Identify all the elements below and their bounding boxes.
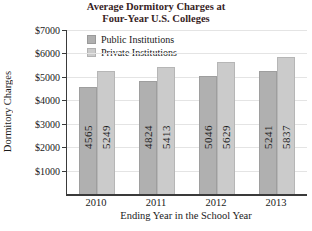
bar-value-label: 5249: [100, 125, 112, 149]
bar-value-label: 5241: [262, 125, 274, 149]
x-tick-label: 2010: [66, 197, 126, 208]
bar-value-label: 5629: [220, 125, 232, 149]
chart-title: Average Dormitory Charges at Four-Year U…: [0, 1, 312, 25]
x-tick-label: 2013: [246, 197, 306, 208]
x-tick-label: 2011: [126, 197, 186, 208]
x-tick-label: 2012: [186, 197, 246, 208]
bar: 5249: [97, 71, 115, 194]
y-tick-label: $4000: [35, 95, 60, 106]
bar: 5241: [259, 71, 277, 194]
y-tick-label: $1000: [35, 165, 60, 176]
y-tick-label: $3000: [35, 118, 60, 129]
dormitory-charges-chart: Average Dormitory Charges at Four-Year U…: [0, 0, 312, 231]
bar-value-wrap: 5837: [278, 122, 294, 152]
bar-value-label: 5046: [202, 125, 214, 149]
bar-value-label: 5413: [160, 125, 172, 149]
bar-group: 45655249: [67, 30, 127, 194]
bar: 4824: [139, 81, 157, 194]
bar-value-wrap: 5249: [98, 122, 114, 152]
bar: 4565: [79, 87, 97, 194]
y-tick-label: $6000: [35, 48, 60, 59]
bar-value-label: 5837: [280, 125, 292, 149]
bar: 5837: [277, 57, 295, 194]
bar-group: 52415837: [247, 30, 307, 194]
y-axis-labels: $1000$2000$3000$4000$5000$6000$7000: [14, 30, 62, 194]
chart-title-line1: Average Dormitory Charges at: [0, 1, 312, 13]
bar-value-wrap: 5413: [158, 122, 174, 152]
bar-value-wrap: 5629: [218, 122, 234, 152]
bar-value-wrap: 5046: [200, 122, 216, 152]
bar-value-wrap: 4824: [140, 122, 156, 152]
bar-value-wrap: 5241: [260, 122, 276, 152]
bar: 5046: [199, 76, 217, 194]
y-tick-label: $2000: [35, 142, 60, 153]
bar-group: 48245413: [127, 30, 187, 194]
bar-value-label: 4565: [82, 125, 94, 149]
bar: 5629: [217, 62, 235, 194]
y-tick-label: $5000: [35, 71, 60, 82]
plot-area: Public InstitutionsPrivate Institutions …: [66, 30, 307, 196]
chart-title-line2: Four-Year U.S. Colleges: [0, 13, 312, 25]
x-axis-title: Ending Year in the School Year: [66, 210, 306, 221]
bar-value-label: 4824: [142, 125, 154, 149]
bar: 5413: [157, 67, 175, 194]
y-axis-title: Dormitory Charges: [0, 30, 14, 194]
bar-group: 50465629: [187, 30, 247, 194]
bar-value-wrap: 4565: [80, 122, 96, 152]
x-axis-labels: 2010201120122013: [66, 197, 306, 209]
y-tick-label: $7000: [35, 25, 60, 36]
